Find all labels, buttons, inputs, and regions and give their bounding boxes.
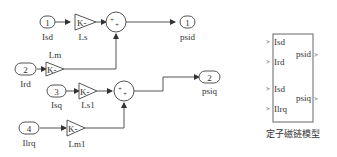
svg-text:1: 1 — [45, 18, 50, 28]
svg-text:2: 2 — [207, 73, 212, 83]
svg-text:K-: K- — [77, 18, 87, 28]
sum-2[interactable]: + + — [114, 81, 134, 101]
svg-text:>: > — [314, 51, 318, 59]
gain-lm-label: Lm — [49, 50, 62, 60]
inport-2-label: Ird — [20, 79, 31, 89]
svg-text:K-: K- — [80, 87, 90, 97]
subsystem-name: 定子磁链模型 — [266, 128, 320, 139]
inport-1[interactable]: 1 Isd — [40, 16, 55, 42]
subsystem-input-3: Isd — [274, 84, 285, 94]
outport-psid[interactable]: 1 psid — [180, 16, 196, 42]
outport-psiq-label: psiq — [202, 86, 218, 96]
sum-1[interactable]: + + — [106, 12, 126, 32]
gain-lm1-label: Lm1 — [69, 139, 86, 149]
subsystem-input-1: Isd — [274, 37, 285, 47]
outport-psid-label: psid — [180, 32, 196, 42]
simulink-diagram: 1 Isd K- Ls + + 1 psid 2 Ird K- Lm 3 Isq… — [0, 0, 337, 157]
outport-psiq[interactable]: 2 psiq — [199, 71, 220, 96]
svg-text:+: + — [118, 85, 122, 93]
svg-text:K-: K- — [68, 124, 78, 134]
inport-4[interactable]: 4 Ilrq — [19, 122, 39, 148]
inport-4-label: Ilrq — [23, 138, 36, 148]
svg-text:>: > — [266, 38, 270, 46]
svg-text:>: > — [266, 58, 270, 66]
svg-text:3: 3 — [54, 87, 59, 97]
svg-text:>: > — [314, 95, 318, 103]
inport-3[interactable]: 3 Isq — [47, 85, 66, 110]
gain-ls1-label: Ls1 — [81, 100, 95, 110]
svg-text:>: > — [266, 105, 270, 113]
gain-ls-label: Ls — [79, 32, 88, 42]
svg-text:1: 1 — [185, 18, 190, 28]
svg-text:+: + — [115, 21, 119, 29]
subsystem-stator-flux-model[interactable]: > Isd > Ird > Isd > Ilrq psid > psiq > 定… — [266, 34, 320, 139]
subsystem-output-2: psiq — [296, 93, 312, 103]
svg-text:4: 4 — [27, 124, 32, 134]
subsystem-input-2: Ird — [274, 57, 285, 67]
gain-ls1[interactable]: K- Ls1 — [79, 83, 97, 110]
inport-1-label: Isd — [42, 32, 53, 42]
subsystem-output-1: psid — [296, 49, 312, 59]
gain-lm1[interactable]: K- Lm1 — [67, 120, 86, 149]
gain-lm[interactable]: K- Lm — [46, 50, 64, 76]
gain-ls[interactable]: K- Ls — [75, 14, 96, 42]
inport-3-label: Isq — [51, 100, 62, 110]
svg-text:+: + — [110, 16, 114, 24]
svg-text:2: 2 — [23, 65, 28, 75]
inport-2[interactable]: 2 Ird — [15, 63, 36, 89]
svg-text:>: > — [266, 85, 270, 93]
svg-text:+: + — [123, 90, 127, 98]
svg-text:K-: K- — [47, 65, 57, 75]
subsystem-input-4: Ilrq — [274, 104, 287, 114]
